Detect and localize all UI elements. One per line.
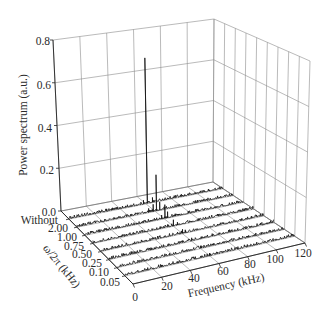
x-tick-label: 40 [188, 272, 200, 284]
x-tick-label: 120 [294, 247, 312, 259]
x-tick-mark [305, 243, 307, 247]
y-tick-mark [114, 268, 117, 269]
y-tick-mark [122, 276, 125, 277]
x-tick-label: 20 [161, 280, 173, 292]
y-tick-mark [74, 227, 77, 228]
spectrum-trace-1.00 [85, 201, 243, 235]
floor-gridline [117, 229, 285, 267]
spectrum-trace-0.50 [101, 213, 264, 250]
z-tick-label: 0.8 [36, 35, 51, 47]
spectrum-trace-0.75 [93, 206, 254, 242]
x-tick-label: 60 [217, 265, 229, 277]
power-spectrum-waterfall-chart: 0.0 0.2 0.4 0.6 0.8 Without 2.00 1.00 0.… [0, 0, 327, 311]
y-tick-mark [98, 252, 101, 253]
back-right-wall-gridline [214, 60, 309, 107]
grid-layer [53, 19, 310, 284]
x-tick-label: 0 [132, 291, 138, 303]
y-tick-mark [82, 235, 85, 236]
floor-gridline [69, 189, 223, 219]
floor-gridline [101, 216, 264, 252]
spectrum-trace-0.10 [117, 228, 284, 268]
z-tick-label: 0.6 [37, 79, 52, 91]
z-tick-labels: 0.0 0.2 0.4 0.6 0.8 [36, 35, 57, 218]
spectrum-trace-0.25 [109, 220, 274, 259]
y-tick-mark [106, 260, 109, 261]
y-category-label: 0.05 [100, 276, 120, 288]
y-tick-mark [66, 219, 69, 220]
x-tick-label: 100 [266, 253, 284, 265]
z-tick-label: 0.4 [38, 122, 53, 134]
spectrum-traces [69, 58, 294, 276]
y-tick-mark [90, 243, 93, 244]
back-right-wall-gridline [214, 19, 310, 61]
z-axis-title: Power spectrum (a.u.) [17, 74, 30, 176]
back-right-wall-gridline [214, 101, 308, 153]
back-right-wall-gridline [213, 141, 306, 197]
z-tick-label: 0.2 [40, 164, 55, 176]
x-tick-mark [133, 284, 135, 288]
x-tick-label: 80 [244, 258, 256, 270]
